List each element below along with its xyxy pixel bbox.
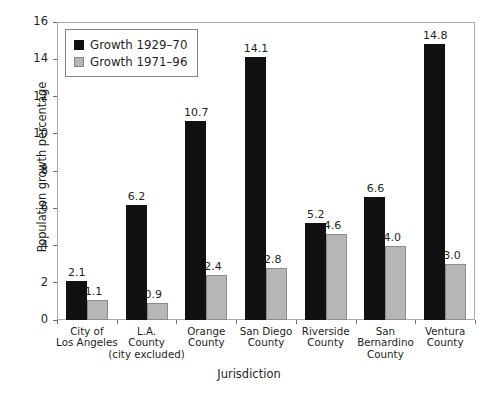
x-category-line: County — [339, 349, 431, 360]
legend-item-0: Growth 1929–70 — [74, 36, 187, 53]
bar-light-2 — [206, 275, 227, 320]
x-category-line: (city excluded) — [101, 349, 193, 360]
bar-value-label-light-4: 4.6 — [324, 219, 354, 232]
x-tick-6 — [415, 320, 416, 324]
bar-group-3: 14.12.8 — [245, 22, 287, 320]
y-tick-label: 8 — [41, 163, 48, 177]
figure-population-growth: Population growth percentage 02468101214… — [0, 0, 498, 399]
x-tick-5 — [356, 320, 357, 324]
y-tick-label: 14 — [33, 51, 48, 65]
bar-value-label-light-0: 1.1 — [85, 285, 115, 298]
bar-value-label-dark-0: 2.1 — [60, 266, 94, 279]
bar-value-label-light-6: 3.0 — [443, 249, 473, 262]
y-tick-label: 0 — [41, 312, 48, 326]
y-tick-label: 16 — [33, 14, 48, 28]
bar-dark-4 — [305, 223, 326, 320]
bar-light-1 — [147, 303, 168, 320]
bar-value-label-light-5: 4.0 — [383, 231, 413, 244]
x-tick-1 — [117, 320, 118, 324]
bar-dark-1 — [126, 205, 147, 320]
bar-group-4: 5.24.6 — [305, 22, 347, 320]
x-tick-0 — [57, 320, 58, 324]
bar-light-5 — [385, 246, 406, 321]
legend-label-1: Growth 1971–96 — [90, 55, 187, 69]
legend-swatch-dark-icon — [74, 40, 84, 50]
legend-label-0: Growth 1929–70 — [90, 38, 187, 52]
x-tick-end — [475, 320, 476, 324]
x-axis-title: Jurisdiction — [0, 367, 498, 381]
x-tick-4 — [296, 320, 297, 324]
y-tick-label: 6 — [41, 200, 48, 214]
bar-value-label-dark-1: 6.2 — [120, 190, 154, 203]
bar-light-4 — [326, 234, 347, 320]
bar-value-label-light-2: 2.4 — [204, 260, 234, 273]
bar-value-label-dark-3: 14.1 — [239, 42, 273, 55]
figure-caption — [22, 390, 478, 399]
x-category-label-6: VenturaCounty — [399, 326, 491, 349]
legend-swatch-light-icon — [74, 57, 84, 67]
y-tick-label: 4 — [41, 238, 48, 252]
x-tick-2 — [176, 320, 177, 324]
bar-light-3 — [266, 268, 287, 320]
legend-item-1: Growth 1971–96 — [74, 53, 187, 70]
bar-dark-0 — [66, 281, 87, 320]
bar-dark-5 — [364, 197, 385, 320]
bar-dark-3 — [245, 57, 266, 320]
bar-group-5: 6.64.0 — [364, 22, 406, 320]
bar-value-label-dark-2: 10.7 — [179, 106, 213, 119]
bar-value-label-dark-6: 14.8 — [418, 29, 452, 42]
x-category-line: County — [399, 337, 491, 348]
bar-dark-2 — [185, 121, 206, 320]
bar-value-label-dark-5: 6.6 — [358, 182, 392, 195]
bar-value-label-light-3: 2.8 — [264, 253, 294, 266]
x-tick-3 — [236, 320, 237, 324]
bar-value-label-light-1: 0.9 — [145, 288, 175, 301]
bar-group-6: 14.83.0 — [424, 22, 466, 320]
bar-light-0 — [87, 300, 108, 320]
bar-dark-6 — [424, 44, 445, 320]
chart-legend: Growth 1929–70 Growth 1971–96 — [65, 29, 198, 77]
y-tick-label: 2 — [41, 275, 48, 289]
y-tick-label: 10 — [33, 126, 48, 140]
y-tick-label: 12 — [33, 89, 48, 103]
bar-light-6 — [445, 264, 466, 320]
